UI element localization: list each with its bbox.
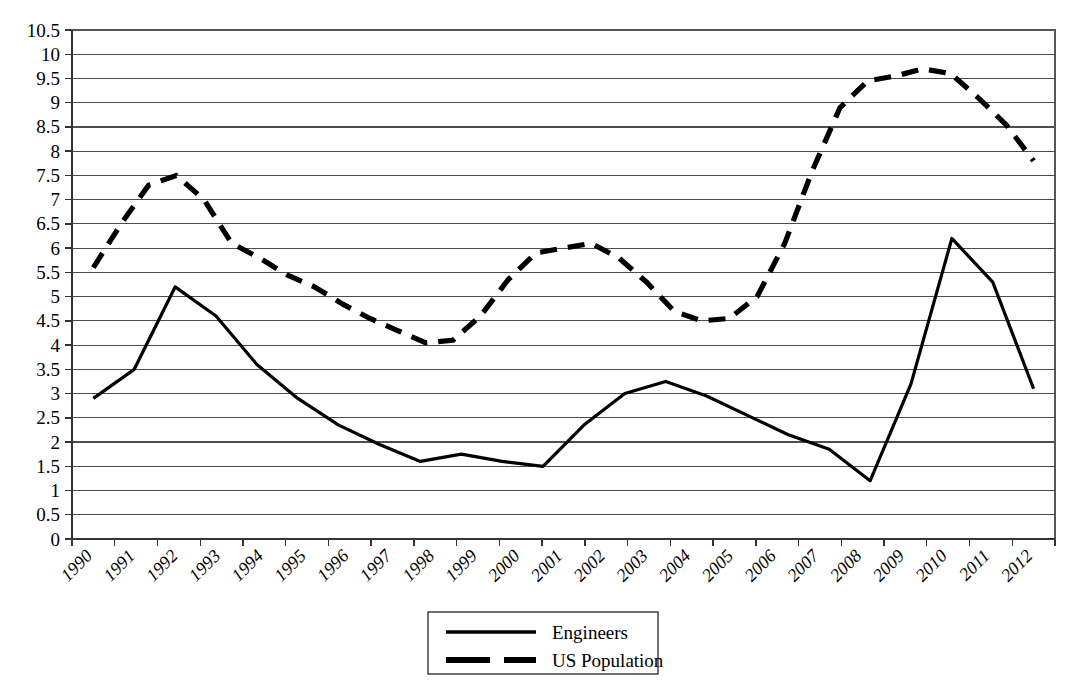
- x-tick-label: 2006: [740, 546, 780, 586]
- x-tick-label: 2009: [869, 546, 909, 586]
- gridlines-group: [72, 30, 1055, 515]
- y-tick-label: 10.5: [27, 20, 60, 41]
- y-tick-label: 0: [51, 529, 61, 550]
- y-tick-label: 2: [51, 432, 61, 453]
- legend-label-engineers: Engineers: [552, 622, 628, 643]
- series-line-us-population: [93, 69, 1033, 343]
- y-tick-label: 6: [51, 238, 61, 259]
- x-tick-label: 1993: [185, 546, 225, 586]
- x-tick-label: 1995: [270, 546, 310, 586]
- y-tick-label: 1: [51, 480, 61, 501]
- x-tick-label: 2010: [911, 546, 951, 586]
- y-axis-tick-labels: 10.5109.598.587.576.565.554.543.532.521.…: [27, 20, 61, 550]
- chart-container: 10.5109.598.587.576.565.554.543.532.521.…: [0, 0, 1079, 692]
- x-tick-label: 2001: [527, 546, 567, 586]
- x-tick-label: 2002: [569, 546, 609, 586]
- chart-legend: EngineersUS Population: [428, 612, 664, 674]
- series-line-engineers: [93, 238, 1033, 480]
- x-axis-tick-labels: 1990199119921993199419951996199719981999…: [57, 545, 1037, 585]
- y-tick-label: 5.5: [36, 262, 60, 283]
- x-tick-label: 2005: [698, 546, 738, 586]
- x-tick-label: 2008: [826, 546, 866, 586]
- x-tick-label: 1997: [356, 545, 396, 585]
- y-tick-label: 6.5: [36, 213, 60, 234]
- legend-label-us-population: US Population: [552, 650, 664, 671]
- x-tick-label: 1992: [142, 546, 182, 586]
- y-tick-marks: [65, 30, 72, 539]
- x-tick-label: 2007: [783, 545, 823, 585]
- plot-area-border: [72, 30, 1055, 539]
- x-tick-label: 2003: [612, 546, 652, 586]
- series-lines-group: [93, 69, 1033, 481]
- y-tick-label: 8.5: [36, 116, 60, 137]
- x-tick-label: 1990: [57, 546, 97, 586]
- x-tick-label: 2000: [484, 546, 524, 586]
- x-tick-label: 1996: [313, 546, 353, 586]
- x-tick-label: 2011: [955, 546, 994, 585]
- y-tick-label: 10: [41, 44, 60, 65]
- y-tick-label: 4: [51, 335, 61, 356]
- x-tick-label: 1994: [228, 546, 268, 586]
- y-tick-label: 5: [51, 286, 61, 307]
- x-tick-label: 1999: [441, 546, 481, 586]
- y-tick-label: 3.5: [36, 359, 60, 380]
- y-tick-label: 1.5: [36, 456, 60, 477]
- x-tick-label: 2004: [655, 546, 695, 586]
- x-tick-label: 1998: [399, 546, 439, 586]
- y-tick-label: 7.5: [36, 165, 60, 186]
- y-tick-label: 3: [51, 383, 61, 404]
- y-tick-label: 7: [51, 189, 61, 210]
- line-chart: 10.5109.598.587.576.565.554.543.532.521.…: [0, 0, 1079, 692]
- y-tick-label: 4.5: [36, 310, 60, 331]
- x-tick-marks: [72, 539, 1055, 546]
- y-tick-label: 8: [51, 141, 61, 162]
- x-tick-label: 1991: [99, 546, 139, 586]
- y-tick-label: 9: [51, 92, 61, 113]
- y-tick-label: 9.5: [36, 68, 60, 89]
- y-tick-label: 0.5: [36, 504, 60, 525]
- x-tick-label: 2012: [997, 546, 1037, 586]
- y-tick-label: 2.5: [36, 407, 60, 428]
